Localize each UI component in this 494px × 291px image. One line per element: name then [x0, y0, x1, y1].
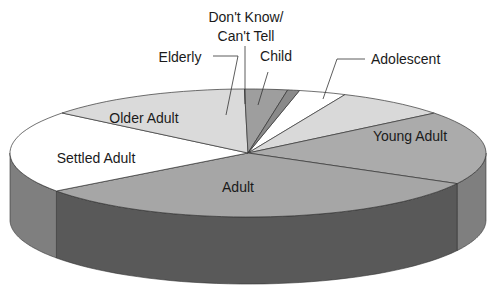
slice-label-line: Older Adult — [109, 110, 178, 126]
slice-label-line: Can't Tell — [218, 28, 275, 44]
slice-label-don-t-know-can-t-tell: Don't Know/Can't Tell — [208, 9, 283, 44]
slice-label-line: Adult — [222, 179, 254, 195]
slice-label-settled-adult: Settled Adult — [57, 150, 136, 166]
slice-label-line: Settled Adult — [57, 150, 136, 166]
slice-label-line: Young Adult — [373, 128, 447, 144]
pie-chart: ChildAdolescentYoung AdultAdultSettled A… — [0, 0, 494, 291]
slice-label-line: Child — [260, 48, 292, 64]
slice-label-line: Don't Know/ — [208, 9, 283, 25]
slice-label-adult: Adult — [222, 179, 254, 195]
slice-label-line: Elderly — [159, 49, 202, 65]
slice-label-child: Child — [260, 48, 292, 64]
slice-label-older-adult: Older Adult — [109, 110, 178, 126]
slice-label-young-adult: Young Adult — [373, 128, 447, 144]
slice-label-line: Adolescent — [371, 51, 440, 67]
slice-label-adolescent: Adolescent — [371, 51, 440, 67]
slice-label-elderly: Elderly — [159, 49, 202, 65]
